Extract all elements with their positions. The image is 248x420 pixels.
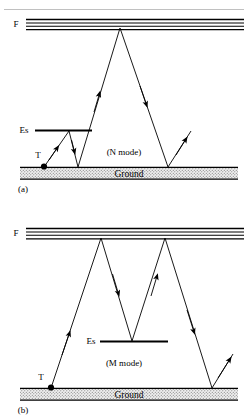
panel-a-es-level-label: Es: [20, 125, 29, 135]
panel-b-f-layer-band: [26, 229, 244, 239]
panel-b-mode-label: (M mode): [106, 358, 142, 368]
figure-canvas: F Es Ground: [0, 0, 248, 420]
panel-a-caption: (a): [18, 184, 28, 194]
panel-a: F Es Ground: [13, 19, 244, 194]
panel-b-transmitter-marker: [48, 384, 54, 390]
panel-b-direction-arrows: [62, 274, 230, 378]
panel-a-transmitter-label: T: [35, 150, 41, 160]
panel-a-f-layer-band: [26, 20, 244, 30]
panel-b-ground-label: Ground: [114, 390, 143, 400]
panel-a-transmitter-marker: [41, 163, 47, 169]
panel-b: F Es Ground: [13, 228, 244, 415]
panel-b-caption: (b): [18, 405, 29, 415]
panel-b-es-level-label: Es: [87, 336, 96, 346]
panel-b-transmitter-label: T: [38, 372, 44, 382]
panel-a-mode-label: (N mode): [107, 147, 142, 157]
panel-b-f-level-label: F: [13, 228, 18, 238]
radio-propagation-figure: F Es Ground: [0, 0, 248, 420]
panel-a-ground-label: Ground: [114, 169, 143, 179]
panel-a-f-level-label: F: [13, 19, 18, 29]
